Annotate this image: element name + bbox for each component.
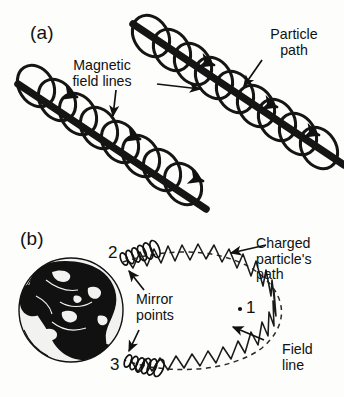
magnetic-field-lines-label: Magnetic field lines	[54, 58, 150, 89]
marker-3-label: 3	[110, 355, 119, 375]
panel-b-label: (b)	[20, 228, 44, 250]
mirror-helix-lower	[123, 354, 167, 378]
mirror-helix-upper	[119, 239, 163, 266]
panel-a-label: (a)	[30, 22, 54, 44]
leader-mirror-point-lower	[129, 330, 139, 351]
charged-particles-path-label: Charged particle's path	[256, 236, 344, 283]
leader-mirror-point-upper	[129, 271, 144, 290]
leader-magnetic-field-lines-2	[157, 84, 200, 89]
field-line-label: Field line	[282, 342, 340, 373]
field-line-thick-left	[18, 84, 206, 209]
marker-2-label: 2	[108, 243, 117, 263]
leader-magnetic-field-lines	[113, 90, 116, 116]
earth-landmasses	[20, 261, 117, 366]
marker-1-label: 1	[246, 298, 255, 318]
point-1-dot	[238, 307, 242, 311]
leader-field-line	[233, 327, 264, 340]
earth-globe	[19, 258, 123, 362]
leader-particle-path	[244, 60, 262, 86]
figure-artwork	[0, 0, 344, 397]
mirror-points-label: Mirror points	[136, 292, 212, 323]
magnetosphere-figure: (a)	[0, 0, 344, 397]
particle-path-label: Particle path	[252, 27, 336, 58]
